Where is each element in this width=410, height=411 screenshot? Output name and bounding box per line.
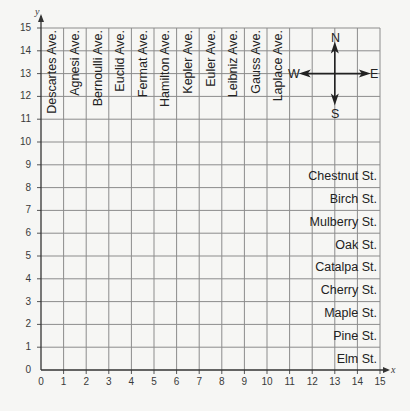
street-label: Chestnut St. bbox=[257, 169, 377, 183]
x-axis-label: x bbox=[391, 364, 395, 375]
compass-north-label: N bbox=[331, 32, 340, 44]
x-tick-label: 0 bbox=[31, 377, 51, 387]
avenue-label: Hamilton Ave. bbox=[158, 30, 172, 120]
avenue-label: Gauss Ave. bbox=[249, 30, 263, 120]
y-tick-label: 3 bbox=[11, 297, 31, 307]
street-label: Birch St. bbox=[257, 192, 377, 206]
y-tick-label: 12 bbox=[11, 91, 31, 101]
y-tick-label: 15 bbox=[11, 23, 31, 33]
avenue-label: Bernoulli Ave. bbox=[91, 30, 105, 120]
street-label: Pine St. bbox=[257, 329, 377, 343]
avenue-label: Descartes Ave. bbox=[45, 30, 59, 120]
x-tick-label: 7 bbox=[189, 377, 209, 387]
avenue-label: Kepler Ave. bbox=[181, 30, 195, 120]
y-tick-label: 9 bbox=[11, 160, 31, 170]
x-tick-label: 14 bbox=[347, 377, 367, 387]
x-tick-label: 3 bbox=[99, 377, 119, 387]
avenue-label: Fermat Ave. bbox=[136, 30, 150, 120]
x-tick-label: 11 bbox=[280, 377, 300, 387]
street-label: Catalpa St. bbox=[257, 260, 377, 274]
street-label: Cherry St. bbox=[257, 283, 377, 297]
compass-east-label: E bbox=[370, 68, 378, 80]
y-tick-label: 13 bbox=[11, 69, 31, 79]
y-tick-label: 10 bbox=[11, 137, 31, 147]
y-tick-label: 8 bbox=[11, 183, 31, 193]
street-label: Maple St. bbox=[257, 306, 377, 320]
x-axis-arrow-icon bbox=[383, 367, 390, 373]
y-tick-label: 7 bbox=[11, 205, 31, 215]
y-axis-label: y bbox=[35, 6, 39, 17]
x-tick-label: 9 bbox=[234, 377, 254, 387]
y-tick-label: 5 bbox=[11, 251, 31, 261]
x-tick-label: 10 bbox=[257, 377, 277, 387]
street-label: Oak St. bbox=[257, 238, 377, 252]
y-tick-label: 2 bbox=[11, 319, 31, 329]
x-tick-label: 1 bbox=[54, 377, 74, 387]
y-tick-label: 14 bbox=[11, 46, 31, 56]
street-map-grid: 0123456789101112131415012345678910111213… bbox=[0, 0, 410, 411]
y-tick-label: 0 bbox=[11, 365, 31, 375]
y-tick-label: 1 bbox=[11, 342, 31, 352]
y-tick-label: 4 bbox=[11, 274, 31, 284]
x-tick-label: 13 bbox=[325, 377, 345, 387]
x-tick-label: 6 bbox=[167, 377, 187, 387]
street-label: Elm St. bbox=[257, 352, 377, 366]
y-tick-label: 6 bbox=[11, 228, 31, 238]
compass-south-label: S bbox=[331, 108, 339, 120]
x-tick-label: 8 bbox=[212, 377, 232, 387]
y-tick-label: 11 bbox=[11, 114, 31, 124]
x-tick-label: 12 bbox=[302, 377, 322, 387]
avenue-label: Agnesi Ave. bbox=[68, 30, 82, 120]
x-tick-label: 5 bbox=[144, 377, 164, 387]
street-label: Mulberry St. bbox=[257, 215, 377, 229]
avenue-label: Euclid Ave. bbox=[113, 30, 127, 120]
avenue-label: Euler Ave. bbox=[204, 30, 218, 120]
avenue-label: Leibniz Ave. bbox=[226, 30, 240, 120]
x-tick-label: 15 bbox=[370, 377, 390, 387]
x-tick-label: 4 bbox=[121, 377, 141, 387]
avenue-label: Laplace Ave. bbox=[271, 30, 285, 120]
x-tick-label: 2 bbox=[76, 377, 96, 387]
compass-west-label: W bbox=[288, 68, 300, 80]
